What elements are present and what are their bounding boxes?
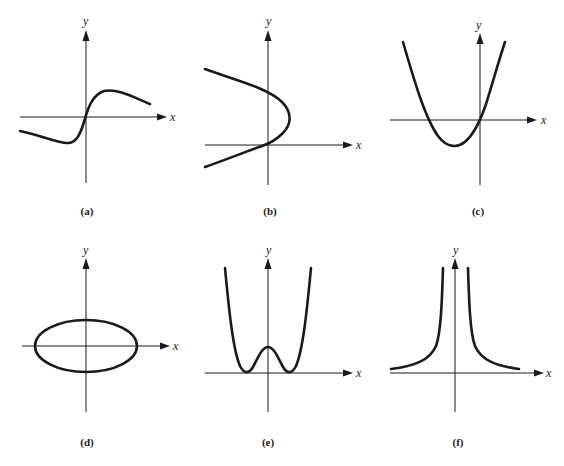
x-axis-arrow-icon: [343, 370, 353, 377]
y-axis-label: y: [82, 14, 89, 28]
y-axis-label: y: [265, 243, 272, 257]
y-axis-arrow-icon: [452, 258, 459, 269]
x-axis-arrow-icon: [534, 370, 544, 377]
x-axis-arrow-icon: [343, 142, 353, 149]
panel-c: x y (c): [390, 18, 547, 218]
panel-label: (c): [472, 205, 485, 218]
x-axis-label: x: [355, 366, 362, 380]
panel-f: x y (f): [390, 243, 552, 449]
x-axis-arrow-icon: [160, 343, 170, 350]
y-axis-arrow-icon: [477, 33, 484, 44]
x-axis-label: x: [169, 110, 176, 124]
y-axis-label: y: [82, 243, 89, 257]
y-axis-label: y: [452, 243, 459, 257]
panel-b: x y (b): [205, 14, 362, 218]
x-axis-label: x: [540, 113, 547, 127]
curve: [205, 69, 290, 167]
panel-d: x y (d): [22, 243, 179, 449]
x-axis-arrow-icon: [157, 114, 167, 121]
curve: [403, 42, 505, 146]
figure-canvas: x y (a) x y (b) x y (c) x y (d): [0, 0, 564, 466]
panel-label: (a): [81, 205, 94, 218]
x-axis-label: x: [545, 366, 552, 380]
curve-right-branch: [468, 268, 519, 369]
y-axis-arrow-icon: [83, 258, 90, 269]
panel-a: x y (a): [20, 14, 176, 218]
x-axis-label: x: [355, 138, 362, 152]
panel-label: (e): [262, 436, 275, 449]
curve-left-branch: [391, 268, 443, 369]
y-axis-arrow-icon: [265, 30, 272, 41]
panel-label: (f): [453, 436, 464, 449]
panel-label: (d): [80, 436, 94, 449]
panel-label: (b): [263, 205, 277, 218]
y-axis-arrow-icon: [83, 30, 90, 41]
x-axis-label: x: [172, 339, 179, 353]
panel-e: x y (e): [205, 243, 362, 449]
x-axis-arrow-icon: [527, 117, 537, 124]
y-axis-label: y: [475, 18, 482, 32]
y-axis-label: y: [265, 14, 272, 28]
y-axis-arrow-icon: [265, 258, 272, 269]
